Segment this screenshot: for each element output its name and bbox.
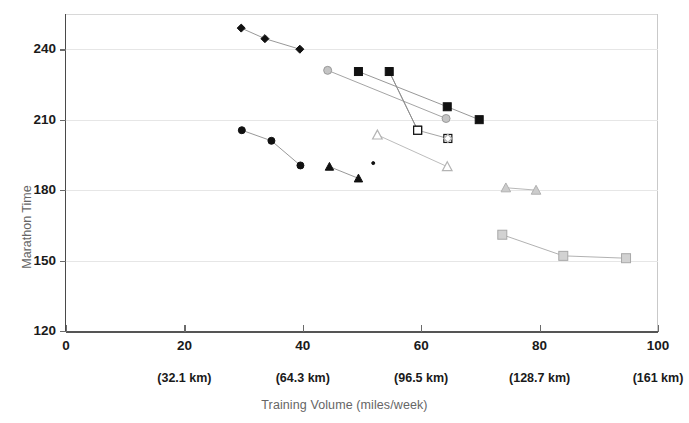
- data-point: [442, 114, 450, 122]
- series-line: [329, 167, 358, 179]
- data-point: [354, 68, 362, 76]
- series-black-dot-small: [372, 162, 375, 165]
- series-line: [241, 28, 300, 49]
- data-point: [297, 162, 304, 169]
- series-gray-square: [498, 230, 631, 262]
- data-point: [475, 116, 483, 124]
- series-line: [358, 72, 479, 120]
- data-point: [414, 126, 422, 134]
- data-series-layer: [0, 0, 689, 423]
- data-point: [296, 45, 304, 53]
- data-point: [559, 251, 568, 260]
- series-black-circle: [238, 127, 304, 169]
- series-black-triangle: [325, 162, 362, 182]
- series-line: [328, 70, 446, 118]
- data-point: [324, 66, 332, 74]
- data-point: [261, 35, 269, 43]
- series-line: [377, 135, 447, 167]
- data-point: [268, 137, 275, 144]
- data-point: [442, 162, 452, 171]
- data-point: [354, 174, 362, 182]
- marathon-time-vs-training-volume-chart: 240210180150120 Marathon Time 020(32.1 k…: [0, 0, 689, 423]
- data-point: [372, 162, 375, 165]
- data-point: [325, 162, 333, 170]
- data-point: [498, 230, 507, 239]
- data-point: [238, 127, 245, 134]
- series-gray-triangle: [501, 183, 541, 194]
- data-point: [385, 68, 393, 76]
- data-point: [501, 183, 511, 192]
- data-point: [622, 254, 631, 263]
- series-black-diamond: [237, 24, 304, 53]
- series-black-square-b: [385, 68, 421, 135]
- data-point: [373, 130, 383, 139]
- series-line: [506, 188, 536, 190]
- data-point: [443, 103, 451, 111]
- series-black-square-a: [354, 68, 483, 124]
- series-line: [389, 72, 417, 131]
- data-point: [237, 24, 245, 32]
- series-line: [242, 130, 301, 165]
